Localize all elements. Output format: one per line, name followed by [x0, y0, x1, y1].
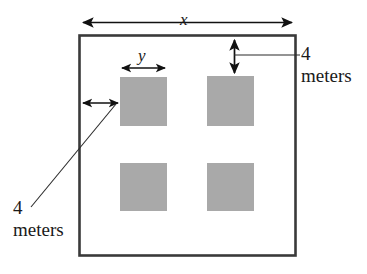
width-label: x: [180, 11, 188, 29]
plot-bottom-right: [207, 163, 254, 211]
top-margin-unit-label: meters: [301, 66, 352, 86]
left-margin-value-label: 4: [13, 198, 23, 218]
top-margin-value-label: 4: [301, 44, 311, 64]
square-side-label: y: [138, 47, 146, 65]
plot-top-left: [120, 77, 167, 126]
plot-top-right: [207, 76, 254, 126]
left-margin-unit-label: meters: [13, 220, 64, 240]
plot-bottom-left: [120, 163, 167, 211]
geometry-diagram: x y 4 meters 4 meters: [0, 0, 367, 274]
field-outline: [80, 36, 296, 256]
